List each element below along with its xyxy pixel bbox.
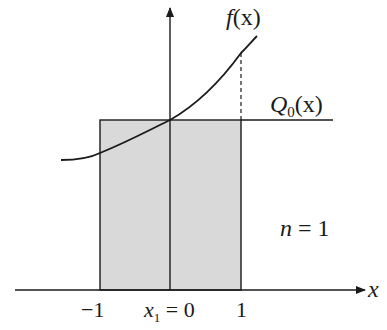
diagram-canvas: f(x) Q0(x) n = 1 x −1 x1 = 0 1 <box>0 0 387 330</box>
polynomial-label: Q0(x) <box>270 91 323 120</box>
function-label: f(x) <box>226 4 261 30</box>
x-axis-label: x <box>367 276 379 302</box>
tick-label-center: x1 = 0 <box>143 297 195 325</box>
tick-label-left: −1 <box>81 297 104 322</box>
n-label: n = 1 <box>280 215 330 241</box>
tick-label-right: 1 <box>236 297 247 322</box>
